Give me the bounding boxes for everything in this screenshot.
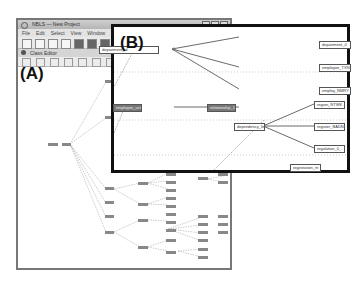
- link-tool-icon[interactable]: [64, 58, 73, 67]
- node-region-ntwk[interactable]: region_NTWK: [314, 101, 345, 109]
- new-icon[interactable]: [22, 39, 32, 49]
- tree-node[interactable]: [218, 231, 228, 234]
- node-tool-icon[interactable]: [78, 58, 87, 67]
- node-regulation-0[interactable]: regulation_0_: [314, 145, 345, 153]
- menu-select[interactable]: Select: [51, 29, 65, 37]
- tree-node[interactable]: [218, 215, 228, 218]
- copy-icon[interactable]: [48, 39, 58, 49]
- save-icon[interactable]: [74, 39, 84, 49]
- node-relationship-1[interactable]: relationship_1: [207, 104, 236, 112]
- tree-node[interactable]: [198, 256, 208, 259]
- tree-node[interactable]: [166, 173, 176, 176]
- tree-node[interactable]: [218, 173, 228, 176]
- tree-node[interactable]: [138, 219, 148, 222]
- node-dependency-link[interactable]: dependency_link: [234, 123, 265, 131]
- paste-icon[interactable]: [61, 39, 71, 49]
- tree-node[interactable]: [166, 229, 176, 232]
- tree-node[interactable]: [166, 205, 176, 208]
- figure-label-a: (A): [20, 64, 44, 84]
- open-icon[interactable]: [87, 39, 97, 49]
- class-editor-title: Class Editor: [30, 50, 57, 56]
- menu-edit[interactable]: Edit: [36, 29, 45, 37]
- node-registration-nt[interactable]: registration_nt: [290, 164, 321, 172]
- tree-node[interactable]: [166, 239, 176, 242]
- tree-node[interactable]: [166, 189, 176, 192]
- tree-node[interactable]: [198, 231, 208, 234]
- tree-node[interactable]: [218, 223, 228, 226]
- node-employee-txn[interactable]: employee_TXN: [319, 64, 351, 72]
- figure-label-b: (B): [120, 33, 144, 53]
- node-employee-actor[interactable]: employee_actor: [113, 104, 142, 112]
- node-register-badn[interactable]: register_BADN: [314, 123, 345, 131]
- tree-node[interactable]: [198, 177, 208, 180]
- undo-icon[interactable]: [35, 39, 45, 49]
- group-tool-icon[interactable]: [92, 58, 101, 67]
- node-employ-nmry[interactable]: employ_NMRY: [319, 87, 351, 95]
- node-department-0[interactable]: department_0: [319, 41, 351, 49]
- tree-node[interactable]: [198, 248, 208, 251]
- tree-node[interactable]: [105, 231, 114, 234]
- tree-node-root[interactable]: [48, 143, 58, 146]
- tree-node[interactable]: [198, 239, 208, 242]
- tree-node[interactable]: [138, 246, 148, 249]
- detail-panel: department_id department_0 employee_TXN …: [111, 24, 350, 173]
- tree-node[interactable]: [198, 223, 208, 226]
- menu-window[interactable]: Window: [87, 29, 105, 37]
- tree-node[interactable]: [105, 215, 114, 218]
- tree-node[interactable]: [166, 221, 176, 224]
- box-tool-icon[interactable]: [50, 58, 59, 67]
- window-title: NBLS — New Project: [32, 21, 80, 27]
- tree-node[interactable]: [138, 182, 148, 185]
- tree-node[interactable]: [166, 197, 176, 200]
- app-icon: [21, 22, 28, 29]
- menu-file[interactable]: File: [22, 29, 30, 37]
- tree-node[interactable]: [218, 181, 228, 184]
- tree-node[interactable]: [166, 213, 176, 216]
- tree-node[interactable]: [198, 215, 208, 218]
- editor-icon: [21, 50, 26, 55]
- tree-node[interactable]: [105, 201, 114, 204]
- tree-node[interactable]: [105, 187, 114, 190]
- tree-node[interactable]: [138, 203, 148, 206]
- tree-node[interactable]: [166, 181, 176, 184]
- tree-node[interactable]: [166, 251, 176, 254]
- tree-node[interactable]: [62, 143, 71, 146]
- menu-view[interactable]: View: [71, 29, 82, 37]
